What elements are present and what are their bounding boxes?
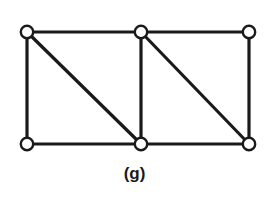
figure-container: (g) (0, 0, 269, 198)
graph-vertex-bottom-right (243, 138, 255, 150)
figure-caption: (g) (0, 163, 269, 185)
graph-edge-v1-v5 (27, 32, 141, 144)
edge-layer (27, 32, 249, 144)
graph-vertex-bottom-middle (135, 138, 147, 150)
vertex-layer (21, 26, 255, 150)
graph-vertex-bottom-left (21, 138, 33, 150)
graph-vertex-top-right (243, 26, 255, 38)
graph-edge-v2-v6 (141, 32, 249, 144)
graph-vertex-top-left (21, 26, 33, 38)
graph-vertex-top-middle (135, 26, 147, 38)
